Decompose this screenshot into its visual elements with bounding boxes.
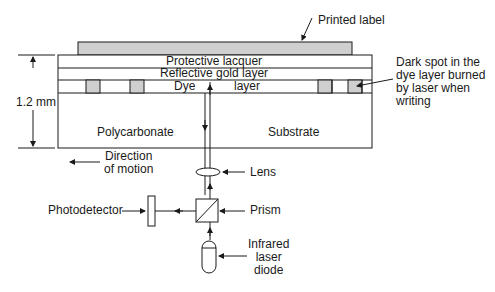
lens: [196, 168, 220, 176]
dye-layer-text: layer: [234, 80, 260, 93]
dye-mark: [348, 80, 362, 93]
dye-mark: [130, 80, 144, 93]
direction-of-motion-text: Direction of motion: [104, 150, 153, 176]
substrate-text: Substrate: [268, 126, 319, 139]
dye-mark: [86, 80, 100, 93]
dye-mark: [318, 80, 332, 93]
laser-diode-text: Infrared laser diode: [248, 238, 289, 277]
polycarbonate-text: Polycarbonate: [97, 126, 174, 139]
lens-text: Lens: [250, 166, 276, 179]
printed-label-text: Printed label: [318, 14, 385, 27]
photodetector-text: Photodetector: [48, 204, 123, 217]
laser-diode: [202, 241, 216, 273]
dark-spot-annotation: Dark spot in the dye layer burned by las…: [396, 56, 485, 108]
dye-text: Dye: [174, 80, 195, 93]
prism-text: Prism: [250, 204, 281, 217]
photodetector: [148, 196, 155, 226]
thickness-label: 1.2 mm: [16, 96, 56, 109]
